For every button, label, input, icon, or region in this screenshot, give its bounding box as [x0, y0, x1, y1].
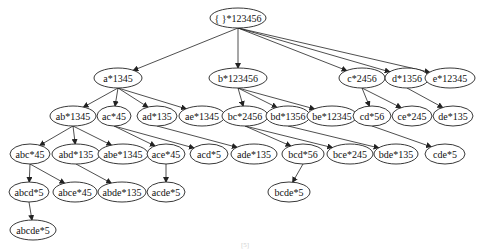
- node-label: bcd*56: [288, 149, 317, 160]
- node-label: a*1345: [103, 73, 132, 84]
- edge-a-ad: [118, 88, 148, 107]
- edge-abd-abde: [76, 164, 111, 183]
- node-ce: ce*245: [392, 106, 432, 126]
- node-abd: abd*135: [52, 144, 100, 164]
- node-acd: acd*5: [190, 144, 228, 164]
- node-label: b*123456: [218, 73, 258, 84]
- node-label: d*1356: [392, 73, 422, 84]
- node-acde: acde*5: [147, 182, 185, 202]
- edge-a-ae: [118, 88, 186, 109]
- edge-a-ac: [115, 88, 118, 106]
- node-a: a*1345: [94, 68, 142, 88]
- edge-c-cd: [362, 88, 369, 106]
- node-bc: bc*2456: [222, 106, 268, 126]
- edge-cd-cde: [372, 126, 431, 147]
- edge-ab-abe: [73, 126, 111, 145]
- node-label: abde*135: [103, 187, 142, 198]
- node-cde: cde*5: [425, 144, 465, 164]
- node-ade: ade*135: [231, 144, 277, 164]
- node-label: bde*135: [379, 149, 413, 160]
- edge-abcd-abcde: [29, 202, 32, 220]
- node-abce: abce*45: [53, 182, 97, 202]
- node-label: bd*1356: [271, 111, 306, 122]
- node-abcde: abcde*5: [10, 220, 56, 240]
- edge-bcd-bcde: [293, 164, 303, 182]
- node-label: ade*135: [237, 149, 271, 160]
- node-cd: cd*56: [353, 106, 391, 126]
- node-ac: ac*45: [97, 106, 131, 126]
- edge-abc-abce: [30, 164, 65, 183]
- node-label: abd*135: [59, 149, 93, 160]
- node-label: acd*5: [197, 149, 221, 160]
- node-label: ace*45: [152, 149, 180, 160]
- node-label: acde*5: [152, 187, 180, 198]
- node-label: be*12345: [312, 111, 351, 122]
- node-bde: bde*135: [374, 144, 418, 164]
- edge-ab-abc: [40, 126, 73, 145]
- node-label: abce*45: [58, 187, 91, 198]
- node-ab: ab*1345: [50, 106, 96, 126]
- node-label: abe*1345: [104, 149, 143, 160]
- node-label: bcde*5: [275, 187, 304, 198]
- node-label: cd*56: [360, 111, 384, 122]
- node-ace: ace*45: [147, 144, 185, 164]
- node-label: abcd*5: [15, 187, 44, 198]
- node-b: b*123456: [209, 68, 267, 88]
- node-label: de*135: [438, 111, 467, 122]
- node-label: ae*1345: [185, 111, 219, 122]
- node-de: de*135: [433, 106, 473, 126]
- node-be: be*12345: [307, 106, 357, 126]
- node-label: ac*45: [102, 111, 126, 122]
- node-label: { }*123456: [214, 13, 261, 24]
- figure-caption: [5]: [241, 241, 249, 249]
- node-label: ad*135: [142, 111, 171, 122]
- edge-root-d: [238, 28, 390, 72]
- node-d: d*1356: [385, 68, 429, 88]
- node-bd: bd*1356: [266, 106, 310, 126]
- node-ad: ad*135: [137, 106, 177, 126]
- node-c: c*2456: [339, 68, 385, 88]
- node-abde: abde*135: [98, 182, 146, 202]
- node-root: { }*123456: [210, 8, 266, 28]
- node-label: ce*245: [398, 111, 427, 122]
- node-label: abcde*5: [16, 225, 49, 236]
- node-bcde: bcde*5: [268, 182, 310, 202]
- node-label: cde*5: [433, 149, 457, 160]
- node-bcd: bcd*56: [282, 144, 324, 164]
- node-label: bce*245: [333, 149, 367, 160]
- node-abe: abe*1345: [98, 144, 148, 164]
- edge-ab-abd: [73, 126, 75, 144]
- node-abcd: abcd*5: [9, 182, 49, 202]
- edge-abc-abcd: [29, 164, 30, 182]
- tree-diagram: { }*123456a*1345b*123456c*2456d*1356e*12…: [0, 0, 477, 251]
- node-e: e*12345: [425, 68, 475, 88]
- edge-d-de: [407, 88, 443, 107]
- node-label: abc*45: [16, 149, 45, 160]
- edge-root-a: [133, 28, 238, 70]
- edge-a-ab: [84, 88, 118, 107]
- node-label: c*2456: [347, 73, 376, 84]
- edge-c-ce: [362, 88, 401, 108]
- node-abc: abc*45: [10, 144, 50, 164]
- node-label: ab*1345: [56, 111, 90, 122]
- node-bce: bce*245: [327, 144, 373, 164]
- node-label: bc*2456: [228, 111, 262, 122]
- edge-b-bc: [238, 88, 243, 106]
- edge-b-bd: [238, 88, 277, 107]
- node-ae: ae*1345: [179, 106, 225, 126]
- node-label: e*12345: [433, 73, 467, 84]
